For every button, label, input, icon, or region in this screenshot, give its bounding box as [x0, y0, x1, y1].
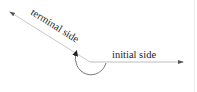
initial-side-label: initial side: [112, 49, 156, 60]
right-border-line: [194, 0, 195, 92]
terminal-side-label: terminal side: [29, 6, 81, 44]
angle-diagram: terminal side initial side: [0, 0, 197, 92]
angle-figure: terminal side initial side: [0, 0, 197, 92]
